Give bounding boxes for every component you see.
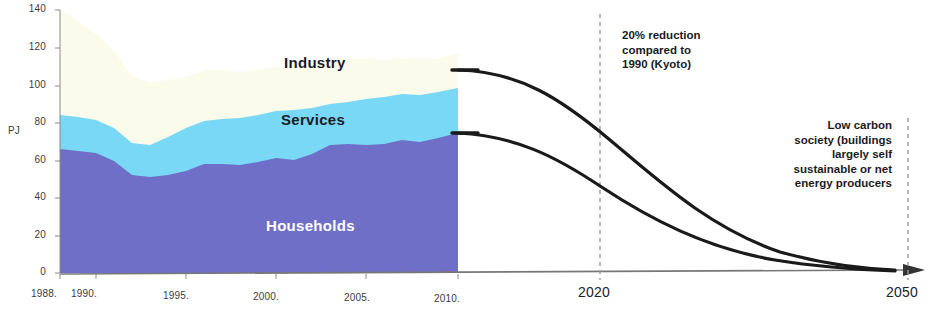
series-label-services: Services [281, 111, 345, 128]
x-tick-label-2000: 2000. [253, 291, 279, 302]
milestone-label-2050: 2050 [886, 284, 918, 300]
y-tick-label-20: 20 [14, 229, 46, 240]
y-tick-label-120: 120 [14, 41, 46, 52]
x-tick-label-1995: 1995. [163, 290, 189, 301]
x-axis-ticks [60, 274, 458, 279]
y-tick-label-80: 80 [14, 116, 46, 127]
annotation-low-carbon-line-2: society (buildings [752, 133, 892, 148]
annotation-kyoto-line-1: 20% reduction [622, 28, 701, 43]
annotation-low-carbon-line-3: largely self [752, 147, 892, 162]
x-axis-arrow-icon [903, 264, 925, 276]
annotation-kyoto-line-3: 1990 (Kyoto) [622, 57, 701, 72]
series-label-households: Households [266, 217, 355, 234]
stacked-area-group [60, 10, 458, 273]
y-tick-label-0: 0 [14, 266, 46, 277]
chart-canvas: PJ 140 120 100 80 60 40 20 0 1988. 1990.… [0, 0, 933, 312]
annotation-kyoto: 20% reduction compared to 1990 (Kyoto) [622, 28, 701, 72]
series-label-industry: Industry [284, 54, 346, 71]
x-tick-label-2005: 2005. [344, 292, 370, 303]
annotation-kyoto-line-2: compared to [622, 43, 701, 58]
annotation-low-carbon-line-4: sustainable or net [752, 162, 892, 177]
x-tick-label-2010: 2010. [434, 293, 460, 304]
milestone-label-2020: 2020 [578, 284, 610, 300]
y-axis-ticks [55, 10, 60, 273]
y-tick-label-140: 140 [14, 3, 46, 14]
y-tick-label-100: 100 [14, 79, 46, 90]
x-tick-label-1988: 1988. [31, 288, 57, 299]
y-tick-label-60: 60 [14, 154, 46, 165]
annotation-low-carbon-line-1: Low carbon [752, 118, 892, 133]
x-tick-label-1990: 1990. [71, 288, 97, 299]
annotation-low-carbon: Low carbon society (buildings largely se… [752, 118, 892, 191]
annotation-low-carbon-line-5: energy producers [752, 176, 892, 191]
y-tick-label-40: 40 [14, 191, 46, 202]
